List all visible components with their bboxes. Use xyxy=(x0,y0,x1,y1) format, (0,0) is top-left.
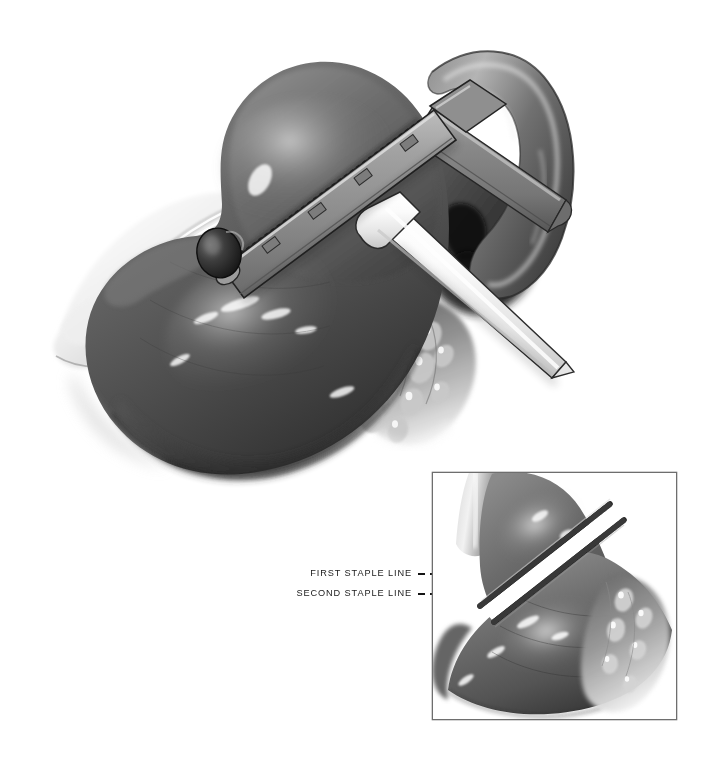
illustration-canvas: FIRST STAPLE LINE SECOND STAPLE LINE xyxy=(0,0,717,769)
second-staple-line-label: SECOND STAPLE LINE xyxy=(296,588,412,598)
first-staple-line-label: FIRST STAPLE LINE xyxy=(310,568,412,578)
medical-illustration-figure: FIRST STAPLE LINE SECOND STAPLE LINE xyxy=(0,0,717,769)
inset-contents xyxy=(432,470,676,719)
completed-transection-inset xyxy=(432,470,676,720)
main-scene xyxy=(54,51,574,478)
